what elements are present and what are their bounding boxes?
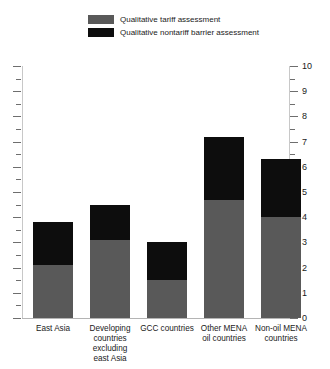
- tick-left-5: [13, 192, 21, 193]
- y-tick-label-3: 3: [302, 238, 307, 247]
- tick-right-10: [290, 66, 298, 67]
- bar-group: [90, 205, 130, 318]
- bar-segment-tariff: [147, 280, 187, 318]
- tick-left-8: [13, 116, 21, 117]
- plot-area: 012345678910 East AsiaDevelopingcountrie…: [22, 66, 290, 318]
- bar-group: [204, 137, 244, 318]
- category-label-line: east Asia: [93, 354, 126, 363]
- tick-minor-left-4.5: [16, 205, 21, 206]
- tick-minor-left-3.5: [16, 230, 21, 231]
- tick-left-0: [13, 318, 21, 319]
- category-label-line: countries: [93, 334, 126, 343]
- tick-minor-left-7.5: [16, 129, 21, 130]
- tick-minor-right-6.5: [290, 154, 295, 155]
- bar-segment-tariff: [204, 200, 244, 318]
- tick-minor-right-9.5: [290, 79, 295, 80]
- category-label: Other MENAoil countries: [193, 324, 255, 344]
- tick-minor-left-8.5: [16, 104, 21, 105]
- category-label-line: oil countries: [202, 334, 246, 343]
- bar-group: [33, 222, 73, 318]
- y-tick-label-6: 6: [302, 163, 307, 172]
- tick-minor-left-6.5: [16, 154, 21, 155]
- bar-segment-nontariff: [261, 159, 301, 217]
- tick-left-10: [13, 66, 21, 67]
- tick-minor-left-2.5: [16, 255, 21, 256]
- bar-group: [261, 159, 301, 318]
- category-label-line: excluding: [93, 344, 128, 353]
- category-label: GCC countries: [136, 324, 198, 334]
- tick-right-7: [290, 142, 298, 143]
- tick-minor-right-8.5: [290, 104, 295, 105]
- tick-left-3: [13, 242, 21, 243]
- category-label-line: GCC countries: [140, 324, 194, 333]
- stacked-bar-chart: 012345678910 East AsiaDevelopingcountrie…: [0, 0, 330, 369]
- bar-segment-nontariff: [147, 242, 187, 280]
- y-tick-label-10: 10: [302, 62, 312, 71]
- x-axis-baseline: [22, 318, 290, 319]
- tick-left-1: [13, 293, 21, 294]
- category-label-line: East Asia: [36, 324, 70, 333]
- tick-minor-left-9.5: [16, 79, 21, 80]
- tick-right-8: [290, 116, 298, 117]
- tick-left-4: [13, 217, 21, 218]
- category-label: East Asia: [22, 324, 84, 334]
- tick-right-0: [290, 318, 298, 319]
- y-tick-label-9: 9: [302, 87, 307, 96]
- tick-minor-left-5.5: [16, 179, 21, 180]
- tick-left-2: [13, 268, 21, 269]
- category-label-line: Developing: [90, 324, 131, 333]
- category-label-line: countries: [264, 334, 297, 343]
- category-label: Non-oil MENAcountries: [250, 324, 312, 344]
- y-tick-label-8: 8: [302, 112, 307, 121]
- tick-minor-right-7.5: [290, 129, 295, 130]
- y-tick-label-4: 4: [302, 213, 307, 222]
- y-tick-label-7: 7: [302, 138, 307, 147]
- category-label: Developingcountriesexcludingeast Asia: [79, 324, 141, 364]
- y-tick-label-2: 2: [302, 264, 307, 273]
- tick-right-9: [290, 91, 298, 92]
- bar-segment-nontariff: [33, 222, 73, 265]
- bar-segment-tariff: [33, 265, 73, 318]
- y-tick-label-1: 1: [302, 289, 307, 298]
- tick-left-7: [13, 142, 21, 143]
- bar-segment-tariff: [261, 217, 301, 318]
- tick-left-6: [13, 167, 21, 168]
- y-axis-left: [22, 66, 23, 318]
- bar-segment-nontariff: [90, 205, 130, 240]
- bar-segment-tariff: [90, 240, 130, 318]
- tick-minor-left-0.5: [16, 305, 21, 306]
- category-label-line: Non-oil MENA: [255, 324, 307, 333]
- bar-segment-nontariff: [204, 137, 244, 200]
- tick-left-9: [13, 91, 21, 92]
- y-tick-label-5: 5: [302, 188, 307, 197]
- y-tick-label-0: 0: [302, 314, 307, 323]
- category-label-line: Other MENA: [201, 324, 247, 333]
- tick-minor-left-1.5: [16, 280, 21, 281]
- bar-group: [147, 242, 187, 318]
